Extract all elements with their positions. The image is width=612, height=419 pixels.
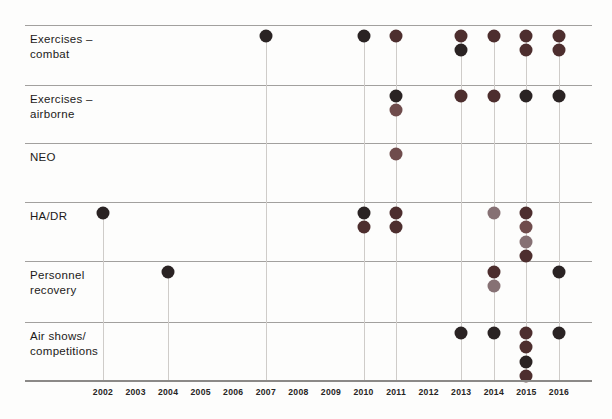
row-separator-line [25, 85, 592, 86]
event-dot [455, 327, 468, 340]
event-dot [520, 44, 533, 57]
event-dot [390, 207, 403, 220]
year-tick-label: 2002 [93, 387, 113, 397]
year-tick-label: 2014 [484, 387, 504, 397]
year-dropline [168, 272, 169, 380]
row-separator-line [25, 261, 592, 262]
year-tick-label: 2006 [223, 387, 243, 397]
activity-timeline-chart: Exercises – combatExercises – airborneNE… [0, 0, 612, 419]
event-dot [487, 30, 500, 43]
event-dot [97, 207, 110, 220]
row-separator-line [25, 322, 592, 323]
event-dot [487, 327, 500, 340]
year-tick-label: 2016 [549, 387, 569, 397]
year-tick-label: 2004 [158, 387, 178, 397]
event-dot [487, 280, 500, 293]
year-tick-label: 2009 [321, 387, 341, 397]
event-dot [520, 235, 533, 248]
year-tick-label: 2008 [288, 387, 308, 397]
event-dot [520, 221, 533, 234]
event-dot [552, 327, 565, 340]
year-tick-label: 2007 [256, 387, 276, 397]
event-dot [520, 327, 533, 340]
category-label: Exercises – airborne [30, 92, 93, 122]
row-separator-line [25, 25, 592, 26]
event-dot [390, 90, 403, 103]
event-dot [552, 30, 565, 43]
event-dot [520, 355, 533, 368]
event-dot [455, 30, 468, 43]
year-tick-label: 2010 [353, 387, 373, 397]
year-tick-label: 2011 [386, 387, 406, 397]
event-dot [487, 90, 500, 103]
event-dot [552, 266, 565, 279]
year-tick-label: 2013 [451, 387, 471, 397]
row-separator-line [25, 143, 592, 144]
year-dropline [103, 213, 104, 380]
event-dot [520, 250, 533, 263]
event-dot [487, 207, 500, 220]
event-dot [357, 30, 370, 43]
event-dot [487, 266, 500, 279]
event-dot [552, 44, 565, 57]
event-dot [520, 341, 533, 354]
category-label: Personnel recovery [30, 268, 84, 298]
category-label: HA/DR [30, 209, 67, 224]
event-dot [162, 266, 175, 279]
event-dot [390, 30, 403, 43]
event-dot [357, 221, 370, 234]
x-axis-line [25, 380, 592, 382]
event-dot [390, 148, 403, 161]
year-tick-label: 2015 [516, 387, 536, 397]
event-dot [455, 44, 468, 57]
category-label: Exercises – combat [30, 32, 93, 62]
event-dot [390, 221, 403, 234]
event-dot [357, 207, 370, 220]
event-dot [520, 207, 533, 220]
category-label: Air shows/ competitions [30, 329, 98, 359]
event-dot [520, 90, 533, 103]
year-tick-label: 2012 [419, 387, 439, 397]
row-separator-line [25, 202, 592, 203]
year-dropline [266, 36, 267, 380]
event-dot [520, 30, 533, 43]
category-label: NEO [30, 150, 56, 165]
event-dot [259, 30, 272, 43]
year-tick-label: 2003 [125, 387, 145, 397]
event-dot [390, 104, 403, 117]
event-dot [552, 90, 565, 103]
year-tick-label: 2005 [191, 387, 211, 397]
event-dot [455, 90, 468, 103]
